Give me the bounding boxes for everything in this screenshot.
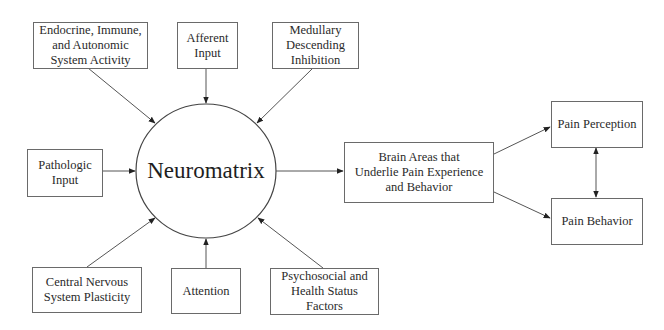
edge-brain-to-perception <box>494 127 550 154</box>
node-medullary-descending-inhibition: Medullary Descending Inhibition <box>272 22 359 69</box>
node-afferent-input: Afferent Input <box>177 22 238 69</box>
node-brain-areas: Brain Areas that Underlie Pain Experienc… <box>344 142 494 203</box>
node-pain-behavior: Pain Behavior <box>551 198 643 245</box>
node-psychosocial-health-status: Psychosocial and Health Status Factors <box>270 268 379 315</box>
node-endocrine-immune-autonomic: Endocrine, Immune, and Autonomic System … <box>33 22 148 69</box>
node-cns-plasticity: Central Nervous System Plasticity <box>32 267 142 313</box>
node-pathologic-input: Pathologic Input <box>27 149 103 197</box>
node-attention: Attention <box>171 268 241 314</box>
neuromatrix-label: Neuromatrix <box>136 104 276 238</box>
edge-brain-to-behavior <box>494 192 550 218</box>
node-pain-perception: Pain Perception <box>551 101 643 148</box>
